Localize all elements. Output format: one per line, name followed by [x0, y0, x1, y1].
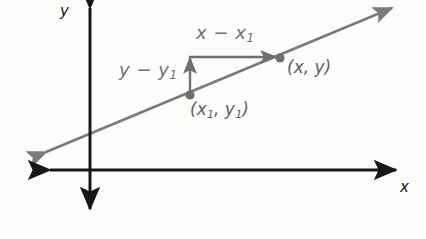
- rise-label-base: y: [119, 59, 130, 80]
- p1-mid: , y: [214, 99, 235, 119]
- point-x-y-label: (x, y): [287, 59, 331, 76]
- p1-sub-x: 1: [207, 108, 214, 121]
- rise-label-subscript: 1: [169, 68, 177, 82]
- run-label-base: x: [196, 22, 207, 43]
- run-label: x − x1: [196, 24, 255, 42]
- slope-diagram-figure: y x x − x1 y − y1 (x1, y1) (x, y): [0, 0, 426, 239]
- rise-label-var: y: [158, 59, 169, 80]
- rise-label-minus: −: [130, 59, 158, 80]
- y-axis-label: y: [60, 4, 69, 19]
- run-label-subscript: 1: [246, 31, 254, 45]
- run-label-minus: −: [207, 22, 235, 43]
- rise-label: y − y1: [119, 61, 178, 79]
- run-label-var: x: [235, 22, 246, 43]
- p1-sub-y: 1: [235, 108, 242, 121]
- p1-close: ): [242, 99, 249, 119]
- point-x-y-dot: [275, 53, 284, 62]
- point-x1-y1-label: (x1, y1): [190, 101, 249, 118]
- x-axis-label: x: [400, 180, 409, 195]
- p1-open: (x: [190, 99, 207, 119]
